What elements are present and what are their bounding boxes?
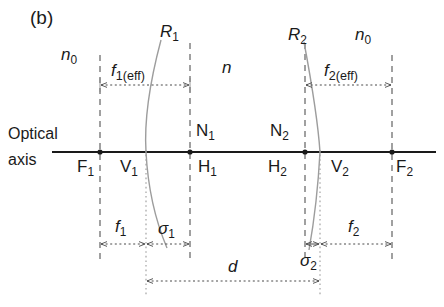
- f2pt-base: F: [396, 157, 406, 176]
- panel-label: (b): [30, 8, 53, 28]
- dimension-label-f2: f2: [348, 218, 359, 236]
- n0-left-sub: 0: [70, 53, 77, 67]
- surface-label-r2: R2: [288, 26, 307, 44]
- optical-diagram-figure: (b) Optical axis n0 n n0 R1 R2 f1(eff) f…: [0, 0, 444, 307]
- refractive-index-n-middle: n: [222, 59, 231, 77]
- focal-point-label-f2: F2: [396, 158, 413, 176]
- h1-base: H: [198, 157, 210, 176]
- f1pt-sub: 1: [87, 165, 94, 179]
- h2-sub: 2: [280, 165, 287, 179]
- v1-sub: 1: [131, 165, 138, 179]
- optical-axis-label-line2: axis: [8, 152, 36, 169]
- surface-label-r1: R1: [160, 23, 179, 41]
- nodal-point-label-n1: N1: [196, 122, 215, 140]
- nodal-point-label-n2: N2: [270, 122, 289, 140]
- f1pt-base: F: [77, 157, 87, 176]
- h1-sub: 1: [210, 165, 217, 179]
- v1-base: V: [120, 157, 131, 176]
- dimension-label-f1-eff: f1(eff): [111, 62, 145, 80]
- focal-point-label-f1: F1: [77, 158, 94, 176]
- sigma2-base: σ: [300, 251, 310, 270]
- dimension-label-f1: f1: [115, 218, 126, 236]
- principal-label-h2: H2: [268, 158, 287, 176]
- v2-sub: 2: [342, 165, 349, 179]
- r2-base: R: [288, 25, 300, 44]
- h2-base: H: [268, 157, 280, 176]
- r1-base: R: [160, 22, 172, 41]
- vertex-label-v1: V1: [120, 158, 138, 176]
- sigma1-base: σ: [158, 219, 168, 238]
- dimension-label-sigma1: σ1: [158, 220, 175, 238]
- sigma2-sub: 2: [310, 259, 317, 273]
- r2-sub: 2: [300, 33, 307, 47]
- point-marker-n2: [302, 149, 307, 154]
- f1eff-sub: 1(eff): [116, 69, 145, 83]
- refractive-index-n0-right: n0: [355, 26, 371, 44]
- n2-base: N: [270, 121, 282, 140]
- f1-sub: 1: [120, 225, 127, 239]
- dimension-label-d: d: [228, 258, 237, 276]
- v2-base: V: [331, 157, 342, 176]
- n0-right-sub: 0: [364, 33, 371, 47]
- point-marker-f1: [97, 149, 102, 154]
- dimension-label-sigma2: σ2: [300, 252, 317, 270]
- lens-surface-r1: [146, 40, 167, 248]
- f2eff-sub: 2(eff): [329, 69, 358, 83]
- dimension-label-f2-eff: f2(eff): [324, 62, 358, 80]
- n1-base: N: [196, 121, 208, 140]
- sigma1-sub: 1: [168, 227, 175, 241]
- point-marker-f2: [389, 149, 394, 154]
- f2pt-sub: 2: [406, 165, 413, 179]
- n1-sub: 1: [208, 129, 215, 143]
- lens-surface-r2: [304, 42, 320, 250]
- r1-sub: 1: [172, 30, 179, 44]
- n2-sub: 2: [282, 129, 289, 143]
- principal-label-h1: H1: [198, 158, 217, 176]
- refractive-index-n0-left: n0: [61, 46, 77, 64]
- f2-sub: 2: [353, 225, 360, 239]
- point-marker-n1: [187, 149, 192, 154]
- optical-axis-label-line1: Optical: [8, 126, 58, 143]
- vertex-label-v2: V2: [331, 158, 349, 176]
